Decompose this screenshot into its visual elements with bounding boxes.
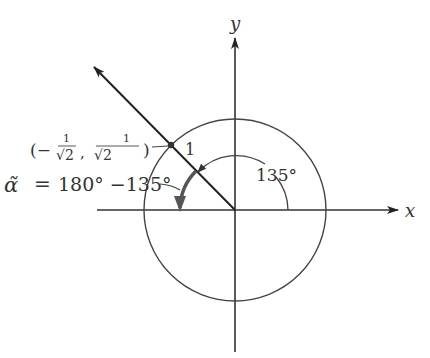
unit-circle-diagram: y x 1 135° (− 1 √2 , 1 √2 ) α̃ = 180° −1… [0,0,430,358]
y-axis-label: y [229,13,241,34]
svg-text:180° −135°: 180° −135° [58,173,172,195]
point-leader-line [152,146,168,147]
svg-text:α̃: α̃ [4,173,18,197]
svg-text:1: 1 [63,132,70,145]
radius-label: 1 [185,140,195,159]
reference-angle-expression: α̃ = 180° −135° [4,172,172,197]
point-coordinate-label: (− 1 √2 , 1 √2 ) [30,132,150,163]
svg-text:(−: (− [30,140,51,160]
svg-text:): ) [143,140,150,160]
svg-text:=: = [34,172,51,196]
svg-text:,: , [80,144,85,162]
angle-label-135: 135° [256,165,297,185]
svg-text:√2: √2 [56,147,74,163]
x-axis-label: x [405,200,415,221]
svg-text:1: 1 [123,132,130,145]
svg-text:√2: √2 [94,147,112,163]
point-on-circle [168,142,174,148]
